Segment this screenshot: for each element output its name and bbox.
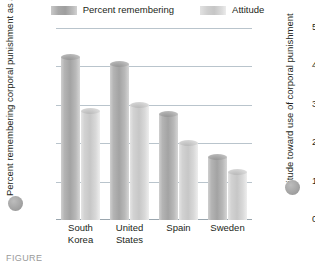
x-axis-label-sweden: Sweden bbox=[203, 222, 252, 234]
bar-united-states-percent-remembering bbox=[110, 64, 129, 220]
bar-body bbox=[61, 57, 80, 220]
bar-south-korea-percent-remembering bbox=[61, 57, 80, 220]
legend-swatch-icon-percent-remembering bbox=[51, 6, 77, 15]
y2-axis-tick-0: 0 bbox=[312, 214, 315, 224]
bar-cap-icon bbox=[228, 169, 247, 175]
bar-united-states-attitude bbox=[130, 105, 149, 220]
figure-container: Percent remembering Attitude 100 80 60 4… bbox=[0, 0, 315, 263]
legend-item-attitude: Attitude bbox=[200, 5, 264, 15]
bar-group-sweden bbox=[208, 28, 247, 220]
y2-axis-tick-3: 3 bbox=[312, 99, 315, 109]
y2-axis-tick-2: 2 bbox=[312, 137, 315, 147]
bar-body bbox=[179, 143, 198, 220]
x-axis-category-labels: SouthKoreaUnitedStatesSpainSweden bbox=[56, 222, 252, 252]
bar-series-container bbox=[56, 28, 252, 220]
y2-axis-title: Attitude toward use of corporal punishme… bbox=[284, 62, 296, 194]
bar-cap-icon bbox=[130, 102, 149, 108]
bar-sweden-percent-remembering bbox=[208, 157, 227, 220]
y-axis-title: Percent remembering corporal punishment … bbox=[4, 46, 16, 196]
bar-body bbox=[130, 105, 149, 220]
legend-item-percent-remembering: Percent remembering bbox=[51, 5, 174, 15]
bar-cap-icon bbox=[81, 108, 100, 114]
y2-axis-tick-4: 4 bbox=[312, 60, 315, 70]
x-axis-label-south-korea: SouthKorea bbox=[56, 222, 105, 245]
legend-label-percent-remembering: Percent remembering bbox=[83, 5, 174, 15]
x-axis-label-spain: Spain bbox=[154, 222, 203, 234]
left-axis-marker-icon bbox=[8, 196, 23, 211]
x-axis-label-united-states: UnitedStates bbox=[105, 222, 154, 245]
chart-legend: Percent remembering Attitude bbox=[0, 2, 315, 18]
bar-body bbox=[81, 111, 100, 220]
bar-cap-icon bbox=[208, 154, 227, 160]
bar-body bbox=[159, 114, 178, 220]
bar-group-south-korea bbox=[61, 28, 100, 220]
bar-body bbox=[208, 157, 227, 220]
bar-sweden-attitude bbox=[228, 172, 247, 220]
plot-area: 100 80 60 40 20 0 5 4 3 2 1 0 bbox=[56, 28, 252, 220]
right-axis-marker-icon bbox=[285, 180, 300, 195]
legend-label-attitude: Attitude bbox=[232, 5, 264, 15]
bar-group-spain bbox=[159, 28, 198, 220]
bar-group-united-states bbox=[110, 28, 149, 220]
bar-spain-percent-remembering bbox=[159, 114, 178, 220]
figure-caption: FIGURE bbox=[6, 254, 42, 263]
bar-spain-attitude bbox=[179, 143, 198, 220]
y2-axis-tick-5: 5 bbox=[312, 22, 315, 32]
legend-swatch-icon-attitude bbox=[200, 6, 226, 15]
bar-body bbox=[110, 64, 129, 220]
bar-body bbox=[228, 172, 247, 220]
bar-cap-icon bbox=[61, 54, 80, 60]
bar-south-korea-attitude bbox=[81, 111, 100, 220]
y2-axis-tick-1: 1 bbox=[312, 176, 315, 186]
